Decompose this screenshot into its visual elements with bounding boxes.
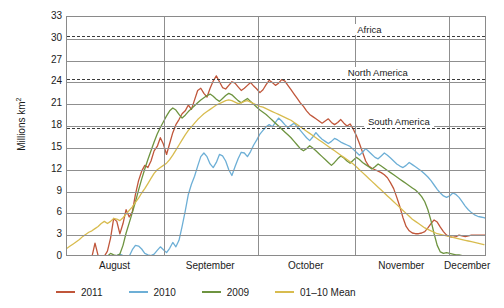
- series-line-2011: [67, 76, 486, 256]
- gridline-horizontal: [67, 61, 485, 62]
- gridline-horizontal: [67, 82, 485, 83]
- gridline-horizontal: [67, 39, 485, 40]
- legend-swatch-2010: [129, 291, 148, 293]
- y-axis-tick: 30: [16, 33, 62, 43]
- y-axis-tick: 15: [16, 142, 62, 152]
- series-layer: [67, 17, 486, 256]
- y-axis-tick: 9: [16, 186, 62, 196]
- legend-label-01-10-mean: 01–10 Mean: [300, 287, 356, 298]
- legend-swatch-01-10-mean: [275, 291, 294, 293]
- x-axis-tick-november: November: [378, 260, 424, 272]
- legend-label-2010: 2010: [154, 287, 176, 298]
- y-axis-tick: 24: [16, 76, 62, 86]
- y-axis-tick: 27: [16, 55, 62, 65]
- gridline-horizontal: [67, 192, 485, 193]
- legend-item-2009[interactable]: 2009: [202, 287, 249, 298]
- gridline-horizontal: [67, 235, 485, 236]
- x-axis-tick-september: September: [186, 260, 235, 272]
- y-axis-tick: 12: [16, 164, 62, 174]
- legend-swatch-2009: [202, 291, 221, 293]
- legend-label-2011: 2011: [81, 287, 103, 298]
- x-axis-tick-labels: AugustSeptemberOctoberNovemberDecember: [66, 260, 486, 274]
- plot-area: AfricaNorth AmericaSouth America: [66, 16, 486, 256]
- y-axis-tick: 3: [16, 229, 62, 239]
- legend-item-2010[interactable]: 2010: [129, 287, 176, 298]
- y-axis-tick: 6: [16, 207, 62, 217]
- gridline-vertical: [449, 17, 450, 255]
- x-axis-tick-october: October: [288, 260, 324, 272]
- chart-legend: 20112010200901–10 Mean: [56, 284, 456, 300]
- gridline-horizontal: [67, 213, 485, 214]
- y-axis-tick: 33: [16, 11, 62, 21]
- y-axis-tick: 0: [16, 251, 62, 261]
- gridline-horizontal: [67, 148, 485, 149]
- legend-swatch-2011: [56, 291, 75, 293]
- gridline-vertical: [258, 17, 259, 255]
- gridline-vertical: [164, 17, 165, 255]
- gridline-vertical: [355, 17, 356, 255]
- gridline-horizontal: [67, 170, 485, 171]
- y-axis-tick: 21: [16, 98, 62, 108]
- chart-container: Millions km2 33302724211815129630 Africa…: [0, 0, 504, 308]
- legend-item-2011[interactable]: 2011: [56, 287, 103, 298]
- x-axis-tick-august: August: [99, 260, 130, 272]
- reference-label-south-america: South America: [364, 116, 434, 127]
- reference-line-south-america: [67, 128, 485, 129]
- y-axis-tick-labels: 33302724211815129630: [14, 16, 62, 256]
- legend-item-01-10-mean[interactable]: 01–10 Mean: [275, 287, 356, 298]
- reference-label-north-america: North America: [344, 67, 412, 78]
- x-axis-tick-december: December: [444, 260, 490, 272]
- gridline-horizontal: [67, 104, 485, 105]
- reference-label-africa: Africa: [353, 24, 385, 35]
- reference-line-africa: [67, 36, 485, 37]
- legend-label-2009: 2009: [227, 287, 249, 298]
- reference-line-north-america: [67, 79, 485, 80]
- y-axis-tick: 18: [16, 120, 62, 130]
